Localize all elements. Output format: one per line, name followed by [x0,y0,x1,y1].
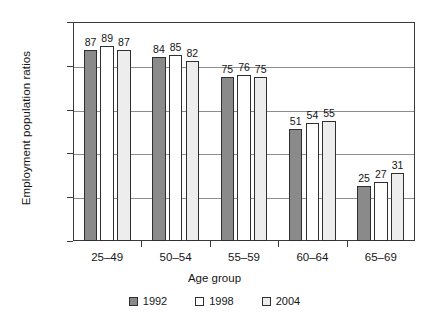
legend-label: 1998 [209,295,233,307]
legend-label: 1992 [143,295,167,307]
bar [357,186,371,241]
bar-value-label: 76 [238,61,250,73]
bar [374,182,388,241]
x-tick-mark [278,241,279,247]
legend-swatch-icon [129,297,138,306]
bar [322,121,336,241]
x-tick-label: 65–69 [341,251,421,263]
legend-swatch-icon [195,297,204,306]
bar-value-label: 84 [153,43,165,55]
bar-value-label: 51 [290,115,302,127]
bar-value-label: 25 [358,172,370,184]
legend-swatch-icon [262,297,271,306]
bar-value-label: 89 [101,32,113,44]
bar-value-label: 82 [186,47,198,59]
bar-value-label: 31 [392,159,404,171]
bar [84,50,98,241]
bar-chart: Employment population ratios 02040608010… [0,0,429,323]
bar [100,46,114,241]
legend-label: 2004 [276,295,300,307]
bars-layer: 878987848582757675515455252731 [73,22,415,241]
y-axis-title: Employment population ratios [20,13,32,243]
bar [237,75,251,241]
bar-value-label: 87 [85,36,97,48]
x-axis-title: Age group [0,272,429,284]
bar [152,57,166,241]
x-tick-mark [347,241,348,247]
bar [289,129,303,241]
legend-item: 2004 [262,295,300,307]
legend: 199219982004 [0,295,429,307]
x-tick-mark [210,241,211,247]
bar [169,55,183,241]
bar [306,123,320,241]
bar-value-label: 54 [307,109,319,121]
legend-item: 1992 [129,295,167,307]
bar [186,61,200,241]
bar-value-label: 75 [221,63,233,75]
bar-value-label: 87 [118,36,130,48]
bar [391,173,405,241]
bar [117,50,131,241]
y-tick-mark [67,241,73,242]
legend-item: 1998 [195,295,233,307]
bar-value-label: 85 [170,41,182,53]
bar-value-label: 75 [255,63,267,75]
bar [221,77,235,241]
bar-value-label: 55 [323,107,335,119]
bar-value-label: 27 [375,168,387,180]
bar [254,77,268,241]
x-tick-mark [141,241,142,247]
